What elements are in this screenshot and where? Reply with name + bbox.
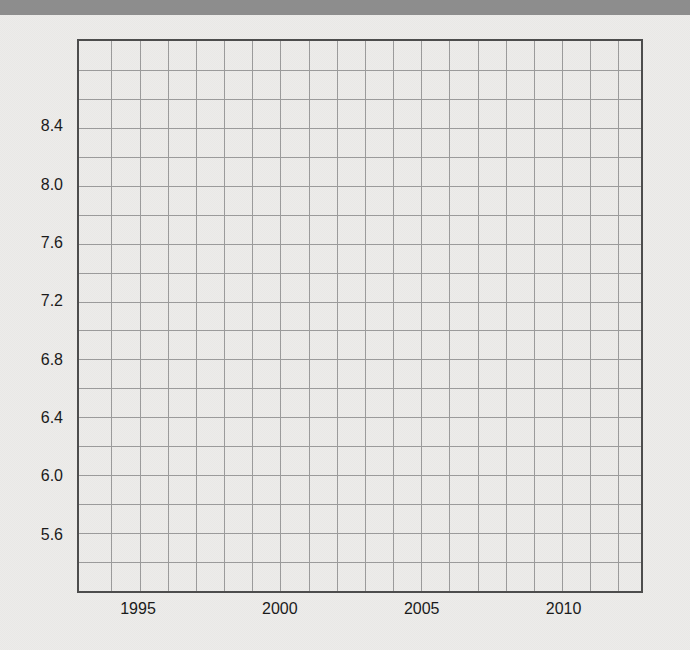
vertical-gridline	[393, 41, 394, 591]
horizontal-gridline	[79, 70, 641, 71]
vertical-gridline	[111, 41, 112, 591]
y-tick-label: 8.0	[0, 177, 63, 193]
vertical-gridline	[224, 41, 225, 591]
vertical-gridline	[478, 41, 479, 591]
vertical-gridline	[168, 41, 169, 591]
y-tick-label: 6.4	[0, 410, 63, 426]
horizontal-gridline	[79, 215, 641, 216]
vertical-gridline	[196, 41, 197, 591]
horizontal-gridline	[79, 330, 641, 331]
horizontal-gridline	[79, 359, 641, 360]
x-axis-tick-labels: 1995200020052010	[77, 595, 643, 621]
horizontal-gridline	[79, 504, 641, 505]
y-tick-label: 7.2	[0, 293, 63, 309]
vertical-gridline	[309, 41, 310, 591]
y-tick-label: 8.4	[0, 118, 63, 134]
x-tick-label: 1995	[120, 601, 156, 617]
horizontal-gridline	[79, 244, 641, 245]
vertical-gridline	[337, 41, 338, 591]
vertical-gridline	[562, 41, 563, 591]
vertical-gridline	[506, 41, 507, 591]
vertical-gridline	[534, 41, 535, 591]
window-top-bar	[0, 0, 690, 15]
vertical-gridline	[421, 41, 422, 591]
y-tick-label: 6.0	[0, 468, 63, 484]
horizontal-gridline	[79, 475, 641, 476]
x-tick-label: 2010	[546, 601, 582, 617]
y-axis-tick-labels: 8.48.07.67.26.86.46.05.6	[0, 39, 70, 593]
horizontal-gridline	[79, 533, 641, 534]
horizontal-gridline	[79, 99, 641, 100]
y-tick-label: 6.8	[0, 352, 63, 368]
y-tick-label: 7.6	[0, 235, 63, 251]
y-tick-label: 5.6	[0, 527, 63, 543]
horizontal-gridline	[79, 302, 641, 303]
horizontal-gridline	[79, 186, 641, 187]
plot-area	[77, 39, 643, 593]
vertical-gridline	[252, 41, 253, 591]
horizontal-gridline	[79, 388, 641, 389]
horizontal-gridline	[79, 157, 641, 158]
vertical-gridline	[449, 41, 450, 591]
horizontal-gridline	[79, 417, 641, 418]
horizontal-gridline	[79, 128, 641, 129]
x-tick-label: 2000	[262, 601, 298, 617]
vertical-gridline	[140, 41, 141, 591]
horizontal-gridline	[79, 562, 641, 563]
horizontal-gridline	[79, 273, 641, 274]
horizontal-gridline	[79, 446, 641, 447]
x-tick-label: 2005	[404, 601, 440, 617]
vertical-gridline	[280, 41, 281, 591]
screen: 8.48.07.67.26.86.46.05.6 199520002005201…	[0, 0, 690, 650]
vertical-gridline	[618, 41, 619, 591]
vertical-gridline	[590, 41, 591, 591]
vertical-gridline	[365, 41, 366, 591]
